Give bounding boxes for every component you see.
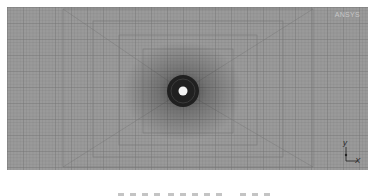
y-axis-label: y xyxy=(343,138,347,147)
caption-text-fragment xyxy=(0,190,371,196)
mesh-grid xyxy=(7,7,368,170)
ansys-logo: ANSYS xyxy=(335,11,360,18)
x-axis-label: X xyxy=(355,156,360,165)
figure-caption xyxy=(0,186,371,196)
hole xyxy=(179,87,188,96)
axis-triad: y X xyxy=(340,141,362,167)
mesh-plot: ANSYS y X xyxy=(7,7,368,170)
